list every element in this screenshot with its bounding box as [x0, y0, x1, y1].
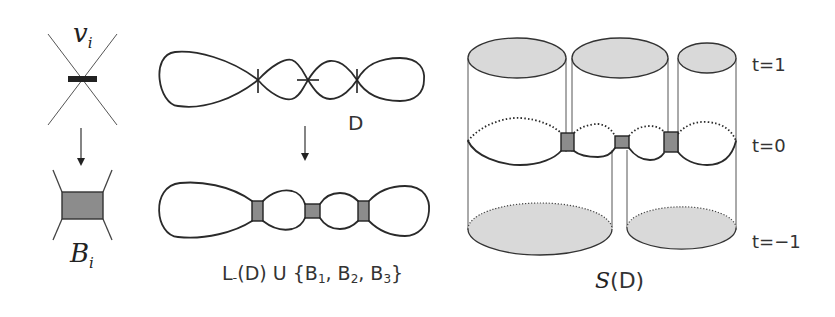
- down-arrow-icon: [77, 128, 85, 166]
- bottom-disk-2: [627, 207, 736, 249]
- level-label-t0: t=0: [752, 135, 786, 156]
- band-b2: [615, 136, 629, 148]
- diagram-label: D: [348, 111, 363, 135]
- band-b1: [252, 201, 263, 221]
- top-disk-1: [468, 38, 566, 78]
- bottom-disk-1: [468, 203, 612, 255]
- cylinder-walls: [468, 58, 736, 230]
- top-disk-2: [572, 38, 668, 78]
- left-panel: vi Bi: [48, 18, 117, 272]
- band-icon: [53, 170, 112, 240]
- surface-caption: S(D): [595, 268, 644, 293]
- level-label-t1: t=1: [752, 54, 786, 75]
- resolved-caption: L-(D) U {B1, B2, B3}: [222, 262, 403, 286]
- middle-panel: D L-(D) U {B1, B2, B3}: [159, 52, 429, 286]
- diagram-d: [159, 52, 424, 107]
- level-zero-diagram: [468, 118, 736, 165]
- top-disk-3: [678, 43, 736, 73]
- vertex-label: vi: [73, 18, 93, 52]
- figure: vi Bi: [0, 0, 835, 317]
- band-b1: [561, 133, 574, 151]
- down-arrow-icon: [301, 126, 309, 161]
- level-label-tminus1: t=−1: [752, 231, 801, 252]
- band-b3: [664, 132, 678, 152]
- band-b3: [358, 201, 369, 221]
- resolved-diagram: [159, 183, 429, 238]
- right-panel: t=1 t=0 t=−1 S(D): [468, 38, 801, 293]
- band-b2: [305, 204, 320, 218]
- band-label: Bi: [69, 238, 94, 272]
